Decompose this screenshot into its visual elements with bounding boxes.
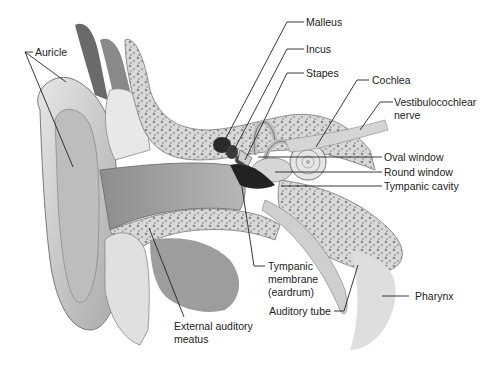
soft-tissue (150, 238, 239, 312)
label-oval-window: Oval window (384, 151, 444, 163)
label-meatus: meatus (174, 333, 208, 345)
label-incus: Incus (306, 43, 331, 55)
label-round-window: Round window (384, 166, 453, 178)
label-external-auditory-meatus: External auditory (174, 320, 253, 332)
label-eardrum: (eardrum) (268, 286, 314, 298)
ear-illustration (0, 0, 495, 392)
lobule-cartilage (105, 233, 149, 345)
label-tympanic-membrane-2: membrane (268, 273, 318, 285)
ear-anatomy-diagram: Auricle Malleus Incus Stapes Cochlea Ves… (0, 0, 495, 392)
label-cochlea: Cochlea (372, 74, 411, 86)
label-malleus: Malleus (306, 16, 342, 28)
label-pharynx: Pharynx (415, 290, 454, 302)
label-vestibulocochlear-nerve: nerve (394, 109, 420, 121)
label-auditory-tube: Auditory tube (269, 305, 331, 317)
label-auricle: Auricle (35, 46, 67, 58)
label-vestibulocochlear: Vestibulocochlear (394, 96, 476, 108)
label-tympanic-membrane: Tympanic (268, 260, 313, 272)
label-tympanic-cavity: Tympanic cavity (384, 180, 459, 192)
label-stapes: Stapes (306, 67, 339, 79)
